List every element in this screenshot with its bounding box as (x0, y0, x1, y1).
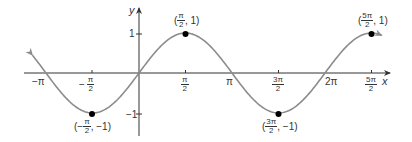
point-label-half-pi: ( π2 , 1) (174, 12, 199, 29)
point-half-pi (183, 31, 189, 37)
x-tick-2pi: 2π (325, 77, 337, 87)
fraction: π2 (181, 76, 189, 93)
point-label-neg-half-pi: (− π2 , −1) (74, 118, 111, 135)
y-tick-neg1: −1 (126, 110, 137, 120)
fraction: π2 (83, 118, 91, 135)
fraction: 5π2 (361, 12, 373, 29)
fraction: 3π2 (265, 118, 277, 135)
fraction: 3π2 (272, 76, 284, 93)
fraction: π2 (87, 76, 95, 93)
plot-canvas (0, 0, 412, 142)
point-5half-pi (369, 31, 375, 37)
fraction: 5π2 (365, 76, 377, 93)
x-tick-neg-pi: −π (32, 77, 45, 87)
point-label-3half-pi: ( 3π2 , −1) (262, 118, 298, 135)
y-axis-label: y (129, 5, 135, 15)
y-tick-1: 1 (129, 29, 135, 39)
x-tick-neg-half-pi: − π2 (79, 76, 94, 93)
fraction: π2 (177, 12, 185, 29)
point-label-5half-pi: ( 5π2 , 1) (358, 12, 388, 29)
point-3half-pi (276, 111, 282, 117)
minus-sign: − (79, 80, 85, 90)
x-tick-pi: π (226, 77, 233, 87)
x-tick-5half-pi: 5π2 (365, 76, 377, 93)
sine-graph: y x 1 −1 −π − π2 π2 π 3π2 2π 5π2 (− π2 ,… (0, 0, 412, 142)
x-axis-label: x (382, 76, 388, 86)
x-tick-half-pi: π2 (181, 76, 189, 93)
x-tick-3half-pi: 3π2 (272, 76, 284, 93)
